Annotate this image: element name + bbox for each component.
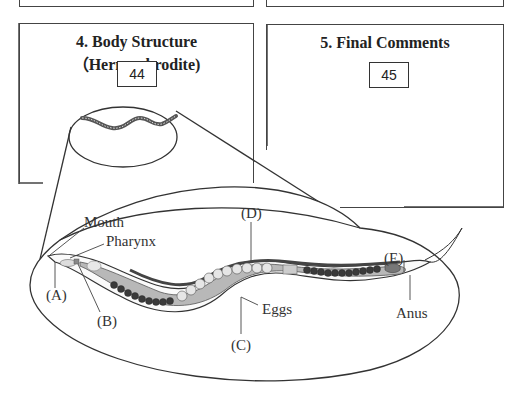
label-e: (E) — [384, 250, 403, 267]
label-c: (C) — [231, 337, 251, 354]
label-eggs: Eggs — [262, 301, 292, 317]
label-anus: Anus — [396, 305, 428, 321]
label-b: (B) — [97, 313, 117, 330]
label-mouth: Mouth — [84, 214, 125, 230]
label-d: (D) — [241, 205, 262, 222]
label-pharynx: Pharynx — [106, 233, 156, 249]
label-a: (A) — [46, 287, 67, 304]
small-worm-ellipse — [69, 107, 177, 167]
c-elegans-diagram: Mouth Pharynx (A) (B) (D) Eggs (C) (E) A… — [0, 0, 525, 400]
